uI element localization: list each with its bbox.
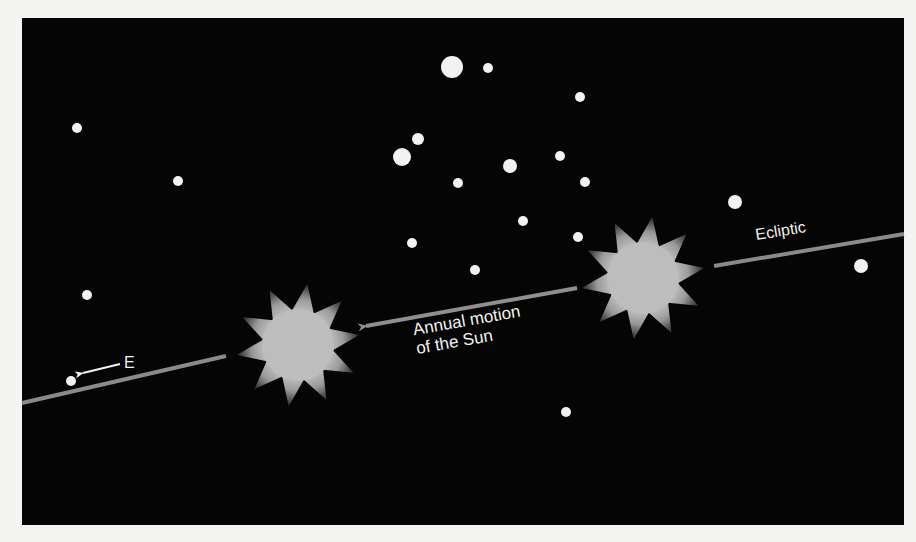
star [573, 232, 583, 242]
star [555, 151, 565, 161]
star [412, 133, 424, 145]
star [518, 216, 528, 226]
star [580, 177, 590, 187]
star [72, 123, 82, 133]
sun-later-icon [237, 284, 359, 407]
star [728, 195, 742, 209]
ecliptic-diagram [0, 0, 916, 542]
star [854, 259, 868, 273]
star [441, 56, 463, 78]
star [173, 176, 183, 186]
star [561, 407, 571, 417]
star [66, 376, 76, 386]
east-direction-label: E [124, 354, 135, 372]
east-arrow-icon [83, 364, 120, 373]
star [82, 290, 92, 300]
star [453, 178, 463, 188]
star [393, 148, 411, 166]
star [503, 159, 517, 173]
star [575, 92, 585, 102]
star-field [66, 56, 868, 417]
star [407, 238, 417, 248]
ecliptic-segment [714, 234, 904, 266]
star [470, 265, 480, 275]
sun-earlier-icon [582, 217, 704, 340]
star [483, 63, 493, 73]
